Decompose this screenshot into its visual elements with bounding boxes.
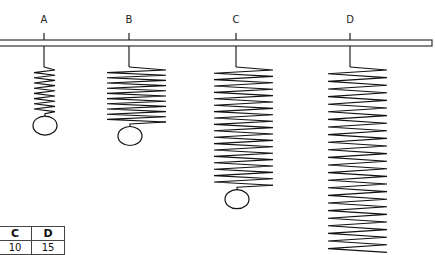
spring-label: B	[126, 14, 133, 25]
table-header-row: C D	[0, 227, 65, 241]
spring-a: A	[33, 14, 57, 135]
spring-label: A	[41, 14, 48, 25]
spring-label: D	[346, 14, 354, 25]
table-value-cell: 10	[0, 241, 32, 255]
data-table: C D 10 15	[0, 226, 65, 255]
table-value-cell: 15	[32, 241, 65, 255]
hanging-mass	[225, 190, 249, 209]
table-value-row: 10 15	[0, 241, 65, 255]
table-header-cell: C	[0, 227, 32, 241]
spring-coil	[34, 67, 55, 112]
spring-d: D	[328, 14, 387, 252]
table-header-cell: D	[32, 227, 65, 241]
spring-label: C	[233, 14, 240, 25]
spring-coil	[328, 67, 387, 252]
spring-b: B	[107, 14, 166, 146]
hanging-mass	[118, 127, 142, 146]
spring-coil	[214, 67, 273, 185]
hanging-mass	[33, 116, 57, 135]
spring-coil	[107, 67, 166, 122]
support-bar	[0, 40, 432, 46]
